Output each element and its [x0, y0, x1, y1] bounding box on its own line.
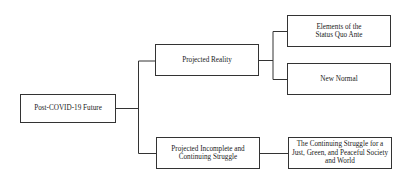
node-label: The Continuing Struggle for a Just, Gree… [290, 140, 390, 165]
node-root: Post-COVID-19 Future [20, 94, 116, 123]
node-new-normal: New Normal [287, 63, 391, 95]
node-label: Post-COVID-19 Future [34, 104, 102, 112]
node-projected-reality: Projected Reality [155, 44, 259, 76]
node-label: New Normal [320, 75, 357, 83]
node-label: Projected Incomplete and Continuing Stru… [167, 145, 249, 162]
node-continuing-struggle: The Continuing Struggle for a Just, Gree… [288, 137, 392, 169]
node-status-quo-ante: Elements of the Status Quo Ante [287, 15, 391, 47]
node-label: Projected Reality [182, 56, 232, 64]
node-label: Elements of the Status Quo Ante [310, 23, 368, 40]
node-projected-incomplete: Projected Incomplete and Continuing Stru… [156, 137, 260, 169]
